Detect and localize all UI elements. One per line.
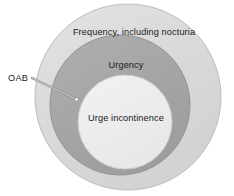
inner-region-label: Urge incontinence [62,113,190,123]
oab-diagram-figure: Frequency, including nocturia Urgency Ur… [0,0,234,196]
middle-region-label: Urgency [66,60,186,70]
outer-region-label: Frequency, including nocturia [54,27,214,37]
oab-callout-label: OAB [8,73,28,83]
